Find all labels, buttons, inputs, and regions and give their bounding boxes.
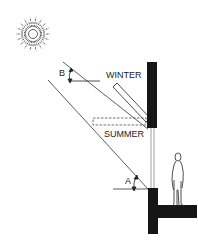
wall-upper <box>147 62 157 128</box>
wall-lower <box>148 188 158 234</box>
sun-ray <box>40 32 46 33</box>
sun-ray <box>25 19 30 28</box>
sun-ray <box>20 35 26 36</box>
sun-ray <box>17 28 26 31</box>
floor-slab <box>158 205 197 218</box>
sun-ray <box>40 36 49 39</box>
angle-b-marker <box>68 68 100 83</box>
sun-ray <box>40 28 49 31</box>
angle-b-label: B <box>59 68 65 78</box>
sun-ray <box>37 19 42 28</box>
sun-ray <box>37 40 42 49</box>
winter-label: WINTER <box>106 70 142 80</box>
sun-ray <box>25 40 30 49</box>
angle-a-label: A <box>125 176 131 186</box>
sun-ray <box>40 35 46 36</box>
person-figure <box>172 153 184 206</box>
sun-icon <box>16 17 50 50</box>
glazing <box>151 128 154 189</box>
shading-diagram: B WINTER SUMMER A <box>0 0 198 244</box>
summer-label: SUMMER <box>104 129 144 139</box>
sun-ray <box>17 36 26 39</box>
sun-ray <box>20 32 26 33</box>
